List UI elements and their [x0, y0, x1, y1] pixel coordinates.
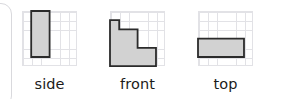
- shape-outline-side: [31, 11, 49, 57]
- label-top: top: [198, 76, 253, 92]
- figure-top: [198, 11, 253, 66]
- shape-top: [198, 11, 253, 66]
- grid-side: [22, 11, 77, 66]
- shape-side: [22, 11, 77, 66]
- figure-front: [110, 11, 165, 66]
- grid-top: [198, 11, 253, 66]
- left-rounded-panel-edge: [0, 3, 12, 99]
- grid-front: [110, 11, 165, 66]
- shape-outline-top: [198, 39, 244, 57]
- figure-side: [22, 11, 77, 66]
- viewport-figure-three-views: sidefronttop: [0, 0, 285, 99]
- label-front: front: [110, 76, 165, 92]
- shape-front: [110, 11, 165, 66]
- shape-outline-front: [110, 20, 156, 66]
- label-side: side: [22, 76, 77, 92]
